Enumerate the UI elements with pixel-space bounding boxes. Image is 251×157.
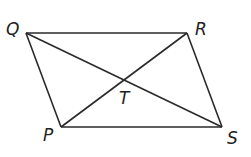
vertex-label-P: P bbox=[43, 125, 54, 145]
vertex-label-Q: Q bbox=[6, 19, 19, 39]
vertex-label-S: S bbox=[227, 128, 238, 148]
parallelogram-diagram: Q R T P S bbox=[0, 0, 251, 157]
vertex-label-R: R bbox=[195, 19, 207, 39]
intersection-label-T: T bbox=[119, 88, 131, 108]
diagonal-PR bbox=[61, 33, 187, 127]
